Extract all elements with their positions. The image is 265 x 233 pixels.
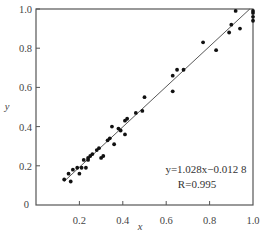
regression-equation: y=1.028x−0.012 8 [165, 163, 247, 175]
data-point [214, 48, 218, 52]
correlation-value: R=0.995 [178, 178, 217, 190]
data-point [234, 9, 238, 13]
data-point [171, 89, 175, 93]
data-point [143, 95, 147, 99]
y-axis: 0.20.40.60.81.0 [19, 4, 40, 172]
x-tick-label: 0.8 [203, 215, 216, 226]
y-axis-title: y [4, 101, 10, 112]
y-tick-label: 1.0 [19, 4, 32, 15]
data-point [110, 125, 114, 129]
x-tick-label: 1.0 [246, 215, 259, 226]
data-point [71, 168, 75, 172]
data-point [251, 11, 255, 15]
data-point [62, 178, 66, 182]
data-point [171, 74, 175, 78]
data-point [227, 31, 231, 35]
data-point [140, 109, 144, 113]
x-axis-title: x [137, 221, 143, 232]
data-point [80, 166, 84, 170]
data-point [84, 166, 88, 170]
data-point [125, 117, 129, 121]
x-tick-label: 0.4 [116, 215, 130, 226]
data-point [91, 152, 95, 156]
y-tick-label: 0.8 [19, 43, 32, 54]
scatter-chart: 00.20.40.60.81.0 0.20.40.60.81.0 x y y=1… [0, 0, 265, 233]
data-point [201, 40, 205, 44]
data-point [251, 15, 255, 19]
data-points [62, 9, 255, 183]
data-point [182, 68, 186, 72]
data-point [123, 133, 127, 137]
data-point [251, 19, 255, 23]
data-point [69, 180, 73, 184]
x-tick-label: 0.6 [160, 215, 173, 226]
data-point [82, 158, 86, 162]
data-point [229, 23, 233, 27]
data-point [101, 154, 105, 158]
data-point [97, 146, 101, 150]
data-point [119, 129, 123, 133]
y-tick-label: 0.2 [19, 161, 32, 172]
data-point [112, 142, 116, 146]
data-point [75, 166, 79, 170]
data-point [238, 27, 242, 31]
data-point [175, 68, 179, 72]
y-tick-label: 0.6 [19, 82, 32, 93]
y-tick-label: 0.4 [19, 122, 33, 133]
x-tick-label: 0.2 [73, 215, 86, 226]
data-point [67, 172, 71, 176]
data-point [78, 172, 82, 176]
data-point [134, 111, 138, 115]
x-tick-label: 0 [24, 199, 29, 210]
data-point [108, 136, 112, 140]
